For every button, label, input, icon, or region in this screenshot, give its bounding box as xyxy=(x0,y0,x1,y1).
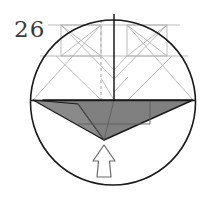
step-number-label: 26 xyxy=(14,16,45,42)
origami-figure-container: 26 xyxy=(0,0,217,203)
origami-diagram-svg: 26 xyxy=(0,0,217,203)
